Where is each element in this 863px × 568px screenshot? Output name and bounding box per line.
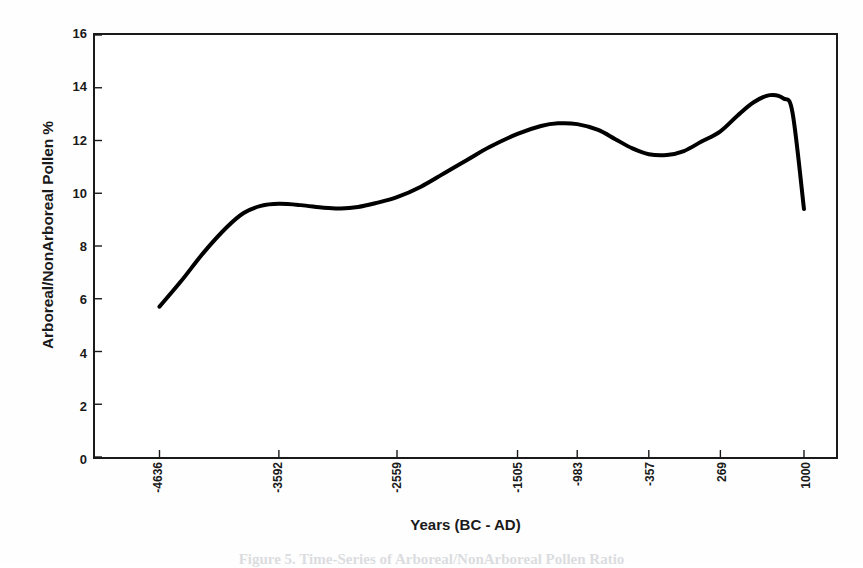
y-tick-label: 14	[59, 79, 87, 94]
figure-caption: Figure 5. Time-Series of Arboreal/NonArb…	[0, 551, 863, 568]
x-axis-tick-labels: -4636-3592-2559-1505-983-3572691000	[93, 462, 838, 514]
y-tick-label: 16	[59, 26, 87, 41]
plot-area	[93, 33, 838, 459]
data-series-line	[159, 95, 803, 307]
x-tick-label: -357	[642, 462, 658, 514]
x-tick-label: -1505	[510, 462, 526, 514]
line-chart-svg	[95, 35, 836, 457]
x-axis-tick-marks	[159, 450, 803, 457]
x-tick-label: 269	[714, 462, 730, 514]
y-axis-tick-marks	[95, 35, 102, 457]
x-axis-title: Years (BC - AD)	[93, 516, 838, 533]
x-tick-label: -983	[570, 462, 586, 514]
y-tick-label: 2	[59, 398, 87, 413]
x-tick-label: 1000	[798, 462, 814, 514]
y-tick-label: 12	[59, 132, 87, 147]
y-tick-label: 10	[59, 185, 87, 200]
x-tick-label: -2559	[389, 462, 405, 514]
y-tick-label: 8	[59, 239, 87, 254]
y-axis-tick-labels: 0246810121416	[55, 0, 87, 562]
x-tick-label: -3592	[270, 462, 286, 514]
y-tick-label: 6	[59, 292, 87, 307]
x-tick-label: -4636	[150, 462, 166, 514]
y-tick-label: 0	[59, 452, 87, 467]
y-tick-label: 4	[59, 345, 87, 360]
